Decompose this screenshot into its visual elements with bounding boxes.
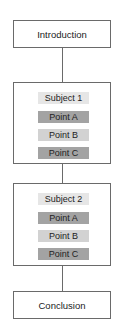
connector-line: [62, 266, 63, 291]
subject-2-point-a: Point A: [38, 212, 89, 224]
conclusion-label: Conclusion: [39, 300, 86, 311]
subject-2-point-b: Point B: [38, 230, 89, 242]
subject-1-point-c: Point C: [38, 147, 89, 159]
subject-1-point-b: Point B: [38, 129, 89, 141]
subject-1-box: Subject 1 Point A Point B Point C: [13, 82, 111, 164]
subject-2-title: Subject 2: [38, 193, 89, 205]
connector-line: [62, 48, 63, 82]
subject-2-box: Subject 2 Point A Point B Point C: [13, 183, 111, 266]
introduction-label: Introduction: [37, 29, 87, 40]
subject-1-point-a: Point A: [38, 111, 89, 123]
connector-line: [62, 164, 63, 183]
conclusion-box: Conclusion: [13, 291, 111, 319]
subject-2-point-c: Point C: [38, 248, 89, 260]
subject-1-title: Subject 1: [38, 92, 89, 104]
introduction-box: Introduction: [13, 20, 111, 48]
